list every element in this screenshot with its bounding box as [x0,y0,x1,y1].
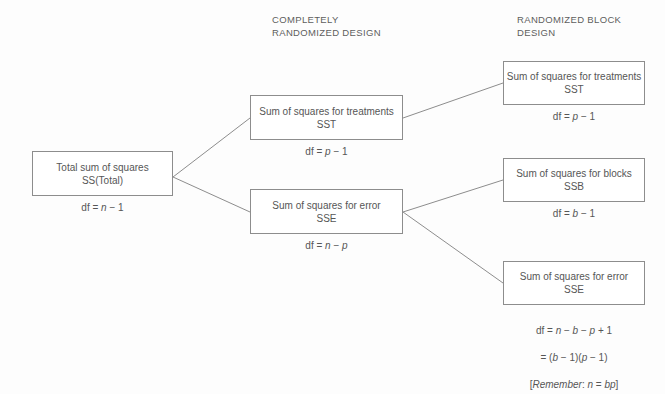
node-rbd-sse-df: df = n − b − p + 1 = (b − 1)(p − 1) [Rem… [503,310,645,394]
node-crd-sse-df: df = n − p [250,239,403,252]
node-crd-sse: Sum of squares for error SSE df = n − p [250,189,403,252]
node-total-df: df = n − 1 [32,201,173,214]
connector-crd-sse-to-rbd-sse [403,212,503,283]
node-total-abbrev: SS(Total) [82,174,123,187]
connector-total-to-crd-sse [173,177,250,212]
node-rbd-sst-abbrev: SST [564,83,583,96]
node-rbd-ssb-title: Sum of squares for blocks [516,167,632,180]
node-rbd-sst-box: Sum of squares for treatments SST [503,61,645,105]
node-rbd-sst: Sum of squares for treatments SST df = p… [503,61,645,123]
node-rbd-sse-df-line2: = (b − 1)(p − 1) [503,351,645,365]
node-crd-sst: Sum of squares for treatments SST df = p… [250,95,403,158]
node-rbd-ssb: Sum of squares for blocks SSB df = b − 1 [503,158,645,220]
connector-total-to-crd-sst [173,118,250,177]
node-total-sum-of-squares: Total sum of squares SS(Total) df = n − … [32,151,173,214]
node-rbd-ssb-box: Sum of squares for blocks SSB [503,158,645,202]
connector-crd-sst-to-rbd-sst [403,83,503,118]
header-randomized-block-design: RANDOMIZED BLOCK DESIGN [517,14,621,39]
node-total-title: Total sum of squares [56,161,148,174]
node-crd-sst-df: df = p − 1 [250,145,403,158]
node-rbd-sse-abbrev: SSE [564,283,584,296]
node-crd-sse-box: Sum of squares for error SSE [250,189,403,234]
node-rbd-sse-df-line1: df = n − b − p + 1 [503,324,645,338]
node-rbd-ssb-df: df = b − 1 [503,207,645,220]
node-total-box: Total sum of squares SS(Total) [32,151,173,196]
connector-crd-sse-to-rbd-ssb [403,180,503,212]
node-rbd-sse-title: Sum of squares for error [520,270,628,283]
node-crd-sse-title: Sum of squares for error [272,199,380,212]
node-crd-sst-title: Sum of squares for treatments [259,105,394,118]
node-crd-sst-abbrev: SST [317,118,336,131]
header-completely-randomized-design: COMPLETELY RANDOMIZED DESIGN [272,14,381,39]
node-rbd-sse: Sum of squares for error SSE df = n − b … [503,261,645,394]
node-rbd-ssb-abbrev: SSB [564,180,584,193]
node-rbd-sst-title: Sum of squares for treatments [507,70,642,83]
node-crd-sst-box: Sum of squares for treatments SST [250,95,403,140]
node-crd-sse-abbrev: SSE [316,212,336,225]
node-rbd-sse-box: Sum of squares for error SSE [503,261,645,305]
node-rbd-sse-df-line3: [Remember: n = bp] [503,378,645,392]
node-rbd-sst-df: df = p − 1 [503,110,645,123]
